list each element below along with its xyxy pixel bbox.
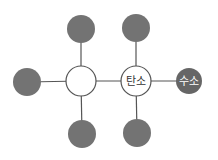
- atom-left: [13, 68, 41, 96]
- carbon-label: 탄소: [126, 75, 146, 88]
- atom-top-right: [122, 14, 150, 42]
- molecule-diagram: 탄소 수소: [0, 0, 218, 160]
- atom-bottom-right: [123, 119, 151, 147]
- atom-carbon-unlabeled: [66, 66, 96, 96]
- atom-bottom-left: [68, 120, 96, 148]
- hydrogen-label: 수소: [179, 75, 199, 88]
- diagram-canvas: 탄소 수소: [0, 0, 218, 160]
- atom-top-left: [67, 15, 95, 43]
